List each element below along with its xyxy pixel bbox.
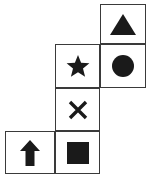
cross-x-icon	[67, 99, 89, 121]
net-cell-arrow-up[interactable]	[5, 131, 55, 174]
net-cell-star[interactable]	[55, 44, 100, 88]
arrow-up-icon	[19, 139, 41, 167]
shape-net-figure	[0, 0, 153, 179]
circle-icon	[111, 54, 135, 78]
net-cell-x-mark[interactable]	[55, 88, 100, 131]
net-cell-circle[interactable]	[100, 44, 146, 88]
net-cell-triangle[interactable]	[100, 4, 146, 44]
square-icon	[66, 141, 90, 165]
triangle-icon	[109, 12, 137, 36]
net-cell-square[interactable]	[55, 131, 100, 174]
star-icon	[66, 54, 90, 78]
